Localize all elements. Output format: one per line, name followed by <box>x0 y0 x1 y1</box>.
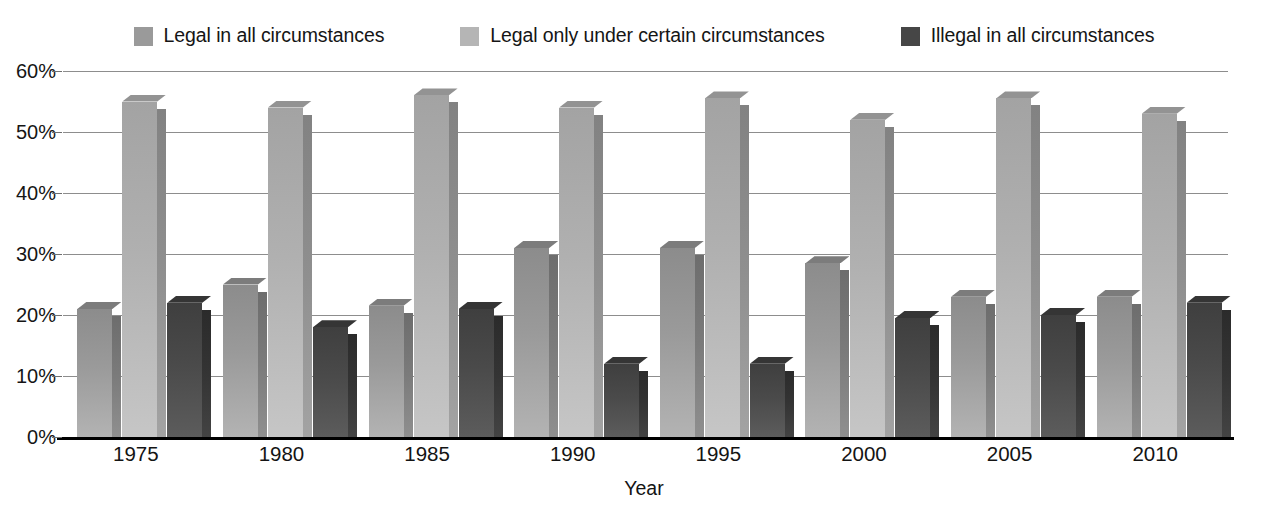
bar[interactable] <box>805 263 840 437</box>
bar-side-face <box>157 109 166 438</box>
bar-top-face <box>77 302 121 309</box>
y-tick-label: 30% <box>2 244 56 264</box>
legend-item-label: Legal in all circumstances <box>164 26 385 46</box>
bar[interactable] <box>1097 297 1132 437</box>
x-tick-label: 2000 <box>791 444 937 465</box>
bar[interactable] <box>313 327 348 437</box>
bar-top-face <box>414 88 458 95</box>
bar-side-face <box>639 371 648 437</box>
x-tick-label: 1995 <box>646 444 792 465</box>
bar[interactable] <box>559 108 594 437</box>
bar[interactable] <box>223 285 258 438</box>
bar-front-face <box>895 318 930 437</box>
bar[interactable] <box>167 303 202 437</box>
y-tick-label: 50% <box>2 122 56 142</box>
x-tick-label: 1980 <box>209 444 355 465</box>
bar-top-face <box>559 101 603 108</box>
bar-front-face <box>660 248 695 437</box>
bar[interactable] <box>268 108 303 437</box>
bar-top-face <box>1142 107 1186 114</box>
bar-front-face <box>514 248 549 437</box>
y-tick-mark <box>52 254 62 255</box>
bar-side-face <box>1177 121 1186 437</box>
bar-side-face <box>303 115 312 437</box>
bar[interactable] <box>1142 114 1177 437</box>
bar-side-face <box>986 304 995 437</box>
bar-top-face <box>369 299 413 306</box>
bar-side-face <box>1076 322 1085 437</box>
y-tick-mark <box>52 71 62 72</box>
bar[interactable] <box>77 309 112 437</box>
legend-swatch-icon <box>134 27 153 46</box>
bar-front-face <box>268 108 303 437</box>
y-axis: 60%50%40%30%20%10%0% <box>0 71 56 451</box>
bar-top-face <box>122 95 166 102</box>
bar[interactable] <box>459 309 494 437</box>
bar-top-face <box>750 357 794 364</box>
x-tick-label: 1985 <box>354 444 500 465</box>
bar[interactable] <box>996 98 1031 437</box>
bar-side-face <box>1031 105 1040 437</box>
gridline <box>63 193 1228 194</box>
x-axis-title: Year <box>0 477 1288 500</box>
bar-top-face <box>1097 290 1141 297</box>
gridline <box>63 132 1228 133</box>
bar-top-face <box>1187 296 1231 303</box>
bar-top-face <box>459 302 503 309</box>
bar-top-face <box>660 241 704 248</box>
bar[interactable] <box>895 318 930 437</box>
legend-item-label: Legal only under certain circumstances <box>490 26 824 46</box>
bar-front-face <box>604 364 639 437</box>
bar-front-face <box>1142 114 1177 437</box>
bar[interactable] <box>604 364 639 437</box>
bar[interactable] <box>705 98 740 437</box>
bar[interactable] <box>514 248 549 437</box>
bar-front-face <box>705 98 740 437</box>
bar-top-face <box>167 296 211 303</box>
bar-top-face <box>705 91 749 98</box>
bar[interactable] <box>414 95 449 437</box>
x-tick-label: 2010 <box>1082 444 1228 465</box>
bar[interactable] <box>850 120 885 437</box>
bar-front-face <box>77 309 112 437</box>
x-tick-label: 1975 <box>63 444 209 465</box>
y-tick-mark <box>52 132 62 133</box>
bar-top-face <box>604 357 648 364</box>
bar-side-face <box>785 371 794 437</box>
bar[interactable] <box>1041 315 1076 437</box>
bar-front-face <box>459 309 494 437</box>
y-tick-label: 20% <box>2 305 56 325</box>
bar[interactable] <box>750 364 785 437</box>
legend-swatch-icon <box>460 27 479 46</box>
bar-side-face <box>404 313 413 437</box>
legend-item-illegal-all[interactable]: Illegal in all circumstances <box>901 26 1155 46</box>
bar-side-face <box>594 115 603 437</box>
bar[interactable] <box>122 102 157 438</box>
y-tick-label: 0% <box>2 427 56 447</box>
bar-side-face <box>258 292 267 438</box>
bar[interactable] <box>369 306 404 437</box>
bar-side-face <box>930 325 939 437</box>
legend-item-label: Illegal in all circumstances <box>931 26 1155 46</box>
bar-front-face <box>805 263 840 437</box>
bar[interactable] <box>951 297 986 437</box>
bar[interactable] <box>1187 303 1222 437</box>
bar-front-face <box>223 285 258 438</box>
bar-front-face <box>1187 303 1222 437</box>
bar-top-face <box>223 278 267 285</box>
y-tick-label: 40% <box>2 183 56 203</box>
bar-side-face <box>1132 304 1141 437</box>
bar-side-face <box>840 270 849 437</box>
bar[interactable] <box>660 248 695 437</box>
bar-top-face <box>850 113 894 120</box>
x-axis-baseline <box>57 437 1234 440</box>
bar-side-face <box>695 255 704 437</box>
legend-swatch-icon <box>901 27 920 46</box>
x-tick-label: 1990 <box>500 444 646 465</box>
legend-item-legal-all[interactable]: Legal in all circumstances <box>134 26 385 46</box>
bar-top-face <box>805 256 849 263</box>
chart-legend: Legal in all circumstances Legal only un… <box>0 20 1288 52</box>
legend-item-legal-certain[interactable]: Legal only under certain circumstances <box>460 26 824 46</box>
bar-front-face <box>1041 315 1076 437</box>
bar-chart: Legal in all circumstances Legal only un… <box>0 0 1288 514</box>
